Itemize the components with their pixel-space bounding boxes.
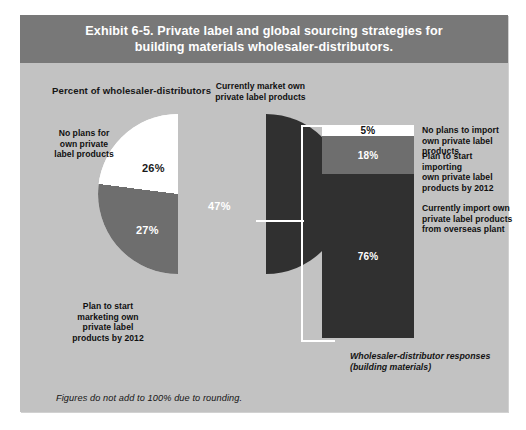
bar-label-plan-import: Plan to start importing own private labe… [422,151,514,193]
bar-label-currently-import-line-2: private label products [422,214,514,225]
exhibit-body: Percent of wholesaler-distributors 26% 2… [20,63,508,412]
exhibit-title-line-1: Exhibit 6-5. Private label and global so… [85,23,442,39]
bar-label-no-import-line-1: No plans to import [422,125,514,136]
chart-subtitle: Percent of wholesaler-distributors [52,85,211,96]
bar-label-plan-import-line-1: Plan to start importing [422,151,514,172]
pie-label-plan-start-line-4: products by 2012 [58,333,158,344]
pie-value-no-plans: 26% [142,162,165,174]
pie-label-plan-start-line-1: Plan to start [58,301,158,312]
exhibit-figure: Exhibit 6-5. Private label and global so… [20,15,508,412]
pie-value-plan-start: 27% [136,224,159,236]
pie-label-currently-market-line-1: Currently market own [198,81,323,92]
bar-chart-caption: Wholesaler-distributor responses (buildi… [350,351,510,373]
bar-segment-no-import: 5% [322,125,414,136]
exhibit-title-line-2: building materials wholesaler-distributo… [135,39,393,55]
pie-label-plan-start-line-3: private label [58,322,158,333]
pie-label-plan-start-line-2: marketing own [58,312,158,323]
exhibit-header: Exhibit 6-5. Private label and global so… [20,15,508,63]
pie-label-no-plans: No plans for own private label products [38,128,130,160]
pie-label-no-plans-line-2: own private [38,139,130,150]
pie-label-no-plans-line-1: No plans for [38,128,130,139]
bar-label-currently-import-line-3: from overseas plant [422,224,514,235]
pie-value-currently-market: 47% [208,200,231,212]
pie-label-no-plans-line-3: label products [38,149,130,160]
rounding-footnote: Figures do not add to 100% due to roundi… [56,393,242,403]
pie-label-currently-market: Currently market own private label produ… [198,81,323,102]
bar-label-plan-import-line-2: own private label [422,172,514,183]
bar-chart-caption-line-1: Wholesaler-distributor responses [350,351,510,362]
bar-chart-caption-line-2: (building materials) [350,362,510,373]
pie-to-bar-connector-line [256,220,304,222]
bar-label-currently-import-line-1: Currently import own [422,203,514,214]
bar-segment-currently-import: 76% [322,174,414,338]
bar-segment-plan-import: 18% [322,136,414,175]
bar-label-plan-import-line-3: products by 2012 [422,183,514,194]
pie-label-plan-start-marketing: Plan to start marketing own private labe… [58,301,158,343]
stacked-bar-chart: 5% 18% 76% [322,125,414,338]
pie-label-currently-market-line-2: private label products [198,92,323,103]
bar-label-currently-import: Currently import own private label produ… [422,203,514,235]
